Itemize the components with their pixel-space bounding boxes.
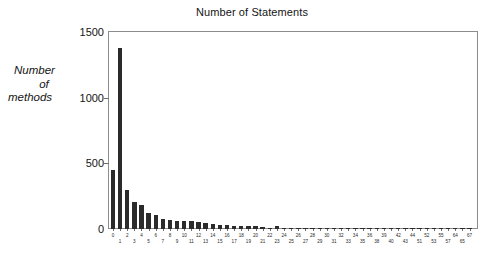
x-axis-tick-labels: 0123456789101112131415161718192021222324… [0, 231, 504, 253]
x-axis-tick-label: 36 [367, 233, 372, 238]
x-axis-tick-label: 18 [239, 233, 244, 238]
x-axis-tick-label: 15 [217, 239, 222, 244]
x-axis-tick-label: 35 [360, 239, 365, 244]
y-axis-tick-labels: 050010001500 [60, 0, 104, 261]
x-axis-tick-label: 13 [203, 239, 208, 244]
x-axis-tick-label: 55 [438, 233, 443, 238]
x-axis-tick-label: 1 [119, 239, 122, 244]
x-axis-tick-label: 32 [339, 233, 344, 238]
x-axis-tick-label: 24 [282, 233, 287, 238]
x-axis-tick-label: 23 [274, 239, 279, 244]
x-axis-tick-label: 12 [196, 233, 201, 238]
bar [189, 221, 193, 229]
x-axis-tick-label: 52 [424, 233, 429, 238]
x-axis-tick-label: 21 [260, 239, 265, 244]
x-axis-tick-label: 7 [162, 239, 165, 244]
bar [182, 221, 186, 229]
bar-series [109, 32, 477, 229]
x-axis-tick-label: 26 [296, 233, 301, 238]
x-axis-tick-label: 43 [403, 239, 408, 244]
x-axis-tick-label: 4 [140, 233, 143, 238]
x-axis-tick-label: 10 [182, 233, 187, 238]
x-axis-tick-label: 8 [169, 233, 172, 238]
x-axis-tick-label: 19 [246, 239, 251, 244]
bar [161, 219, 165, 229]
bar [168, 220, 172, 229]
bar [125, 190, 129, 229]
x-axis-tick-label: 3 [133, 239, 136, 244]
x-axis-tick-label: 25 [289, 239, 294, 244]
x-axis-tick-label: 28 [310, 233, 315, 238]
x-axis-tick-label: 6 [154, 233, 157, 238]
x-axis-tick-label: 29 [317, 239, 322, 244]
x-axis-tick-label: 40 [388, 239, 393, 244]
x-axis-tick-label: 9 [176, 239, 179, 244]
x-axis-tick-label: 30 [324, 233, 329, 238]
x-axis-tick-label: 0 [112, 233, 115, 238]
x-axis-tick-label: 65 [460, 239, 465, 244]
x-axis-tick-label: 16 [224, 233, 229, 238]
y-axis-tick-label: 500 [60, 158, 104, 168]
x-axis-tick-label: 31 [331, 239, 336, 244]
x-axis-tick-label: 34 [353, 233, 358, 238]
bar [139, 205, 143, 229]
bar [111, 170, 115, 229]
bar [196, 222, 200, 229]
x-axis-tick-label: 20 [253, 233, 258, 238]
bar [175, 221, 179, 229]
x-axis-tick-label: 57 [446, 239, 451, 244]
chart-figure: Number of Statements Number of methods 0… [0, 0, 504, 261]
x-axis-tick-label: 22 [267, 233, 272, 238]
bar [146, 213, 150, 229]
x-axis-tick-label: 14 [210, 233, 215, 238]
y-axis-tick-label: 1000 [60, 93, 104, 103]
y-axis-tick-label: 1500 [60, 27, 104, 37]
x-axis-tick-label: 67 [467, 233, 472, 238]
x-axis-tick-label: 17 [232, 239, 237, 244]
x-axis-tick-label: 64 [453, 233, 458, 238]
x-axis-tick-label: 39 [381, 233, 386, 238]
x-axis-tick-label: 42 [396, 233, 401, 238]
x-axis-tick-label: 11 [189, 239, 194, 244]
x-axis-tick-label: 51 [417, 239, 422, 244]
x-axis-tick-label: 27 [303, 239, 308, 244]
bar [132, 202, 136, 229]
bar [118, 48, 122, 229]
x-axis-tick-label: 44 [410, 233, 415, 238]
x-axis-tick-label: 33 [346, 239, 351, 244]
x-axis-tick-label: 38 [374, 239, 379, 244]
x-axis-tick-label: 53 [431, 239, 436, 244]
x-axis-tick-label: 2 [126, 233, 129, 238]
x-axis-tick-label: 5 [147, 239, 150, 244]
bar [154, 215, 158, 229]
